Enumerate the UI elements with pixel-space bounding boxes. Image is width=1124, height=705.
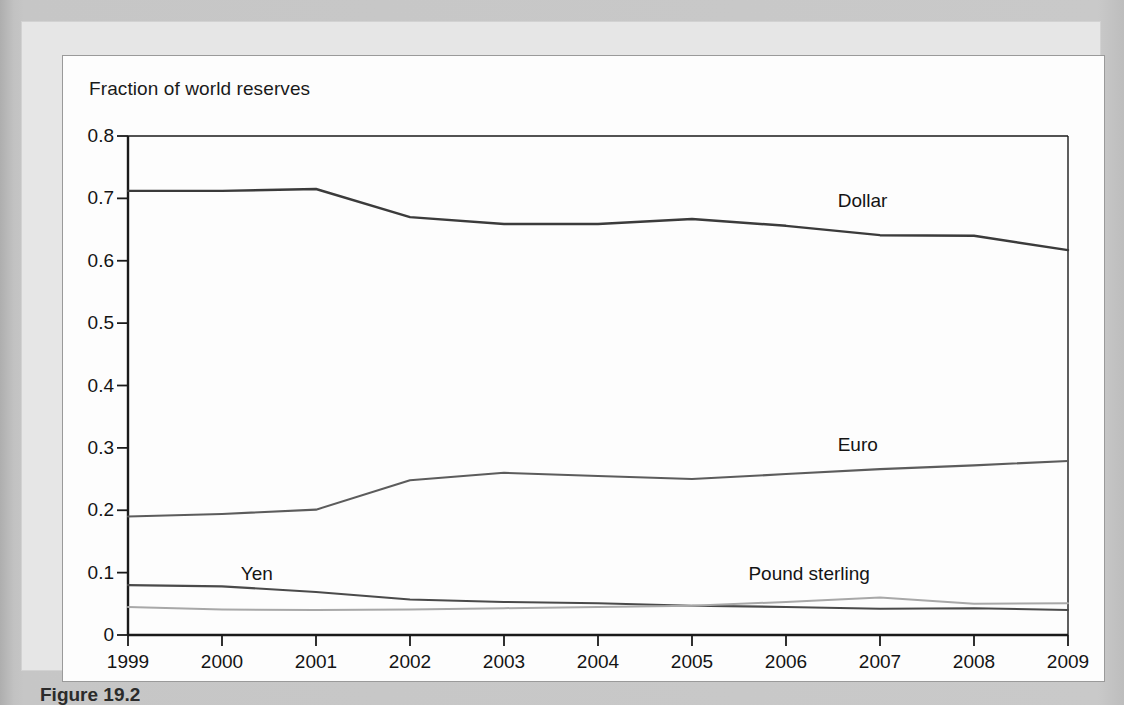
series-label-euro: Euro — [838, 434, 878, 456]
y-axis-tick-label: 0.4 — [62, 375, 114, 397]
x-axis-tick-label: 2003 — [483, 651, 525, 673]
y-axis-tick-label: 0.6 — [62, 250, 114, 272]
series-line-dollar — [128, 189, 1068, 250]
x-axis-tick-label: 1999 — [107, 651, 149, 673]
y-axis-tick-label: 0 — [62, 624, 114, 646]
x-axis-tick-label: 2002 — [389, 651, 431, 673]
x-axis-tick-label: 2008 — [953, 651, 995, 673]
y-axis-tick-label: 0.3 — [62, 437, 114, 459]
figure-panel: Fraction of world reserves 00.10.20.30.4… — [62, 55, 1105, 682]
x-axis-tick-label: 2004 — [577, 651, 619, 673]
x-axis-tick-label: 2005 — [671, 651, 713, 673]
x-axis-tick-label: 2000 — [201, 651, 243, 673]
plot-frame — [128, 136, 1068, 635]
chart-plot-area — [63, 56, 1106, 683]
y-axis-tick-label: 0.7 — [62, 187, 114, 209]
series-label-yen: Yen — [241, 563, 273, 585]
series-label-pound-sterling: Pound sterling — [748, 563, 869, 585]
series-label-dollar: Dollar — [838, 190, 888, 212]
line-chart-svg — [63, 56, 1106, 683]
series-line-euro — [128, 461, 1068, 517]
y-axis-tick-label: 0.5 — [62, 312, 114, 334]
y-axis-tick-label: 0.2 — [62, 499, 114, 521]
x-axis-tick-label: 2009 — [1047, 651, 1089, 673]
x-axis-tick-label: 2001 — [295, 651, 337, 673]
x-axis-tick-label: 2006 — [765, 651, 807, 673]
x-axis-tick-label: 2007 — [859, 651, 901, 673]
figure-caption: Figure 19.2 — [40, 684, 140, 705]
y-axis-tick-label: 0.1 — [62, 562, 114, 584]
y-axis-tick-label: 0.8 — [62, 125, 114, 147]
figure-outer-frame: Fraction of world reserves 00.10.20.30.4… — [22, 22, 1100, 670]
